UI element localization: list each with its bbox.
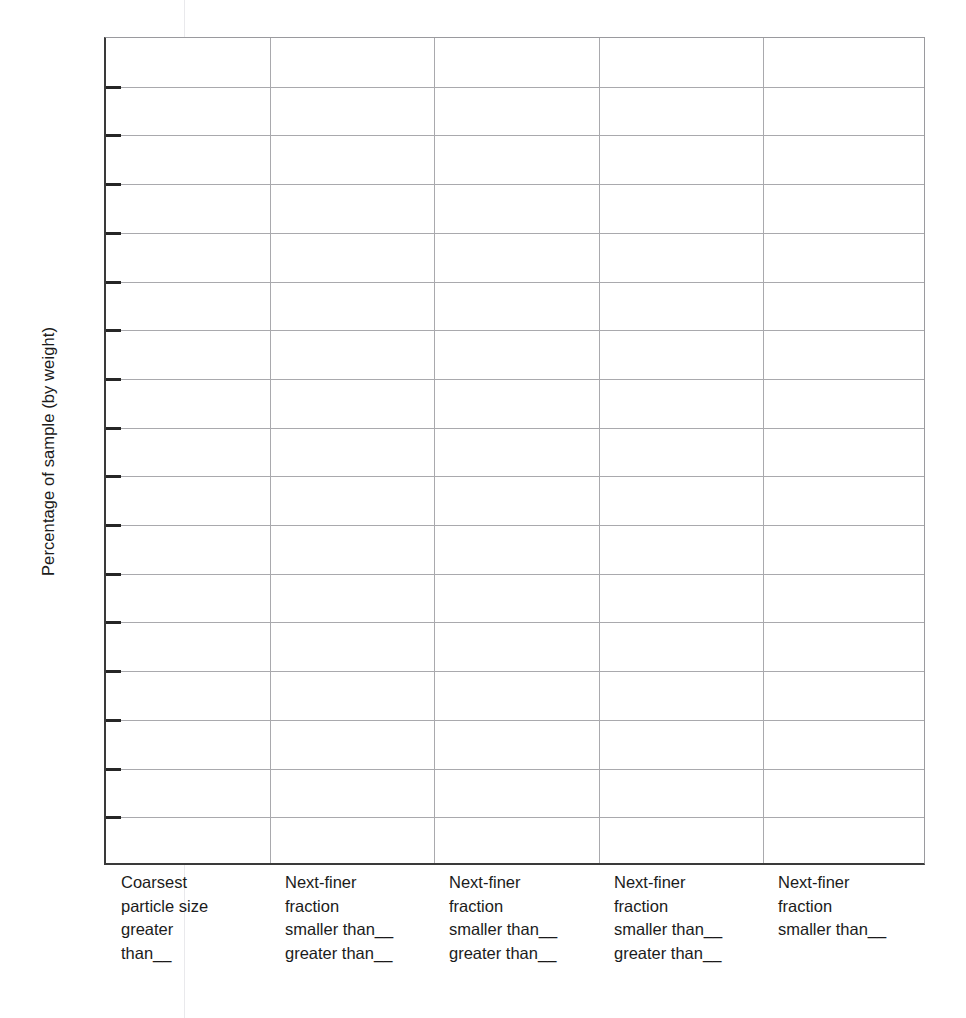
gridline-horizontal bbox=[106, 769, 924, 770]
y-axis-tick bbox=[106, 134, 121, 137]
x-axis-label-line: fraction bbox=[285, 895, 393, 919]
y-axis-title-text: Percentage of sample (by weight) bbox=[39, 327, 58, 576]
x-axis-label-line: Next-finer bbox=[778, 871, 886, 895]
gridline-horizontal bbox=[106, 720, 924, 721]
y-axis-title: Percentage of sample (by weight) bbox=[0, 37, 96, 865]
y-axis-tick bbox=[106, 573, 121, 576]
gridline-horizontal bbox=[106, 87, 924, 88]
gridline-horizontal bbox=[106, 184, 924, 185]
y-axis-tick bbox=[106, 281, 121, 284]
gridline-horizontal bbox=[106, 574, 924, 575]
x-axis-label-line: Next-finer bbox=[449, 871, 557, 895]
x-axis-label-line: smaller than__ bbox=[778, 918, 886, 942]
gridline-horizontal bbox=[106, 476, 924, 477]
gridline-vertical bbox=[270, 38, 271, 863]
vertical-gridlines bbox=[106, 38, 924, 863]
y-axis-tick bbox=[106, 427, 121, 430]
x-axis-label-line: greater bbox=[121, 918, 208, 942]
x-axis-label-line: particle size bbox=[121, 895, 208, 919]
gridline-vertical bbox=[599, 38, 600, 863]
y-axis-tick bbox=[106, 816, 121, 819]
y-axis-tick bbox=[106, 768, 121, 771]
x-axis-label-line: than__ bbox=[121, 942, 208, 966]
y-axis-tick bbox=[106, 86, 121, 89]
x-axis-label-line: greater than__ bbox=[285, 942, 393, 966]
plot-area bbox=[104, 37, 925, 865]
x-axis-label-next-finer-3: Next-finerfractionsmaller than__greater … bbox=[614, 871, 722, 965]
x-axis-label-line: Next-finer bbox=[285, 871, 393, 895]
y-axis-tick bbox=[106, 329, 121, 332]
gridline-horizontal bbox=[106, 671, 924, 672]
x-axis-label-line: Coarsest bbox=[121, 871, 208, 895]
x-axis-label-line: fraction bbox=[449, 895, 557, 919]
x-axis-label-line: greater than__ bbox=[449, 942, 557, 966]
x-axis-label-line: fraction bbox=[614, 895, 722, 919]
y-axis-tick bbox=[106, 183, 121, 186]
gridline-vertical bbox=[763, 38, 764, 863]
y-axis-tick bbox=[106, 524, 121, 527]
blank-grid-chart-figure: Percentage of sample (by weight) Coarses… bbox=[0, 0, 966, 1018]
x-axis-label-coarsest-fraction: Coarsestparticle sizegreaterthan__ bbox=[121, 871, 208, 965]
x-axis-category-labels: Coarsestparticle sizegreaterthan__Next-f… bbox=[104, 871, 966, 981]
x-axis-label-next-finer-4: Next-finerfractionsmaller than__ bbox=[778, 871, 886, 942]
y-axis-tick bbox=[106, 232, 121, 235]
x-axis-label-next-finer-2: Next-finerfractionsmaller than__greater … bbox=[449, 871, 557, 965]
x-axis-label-line: greater than__ bbox=[614, 942, 722, 966]
gridline-horizontal bbox=[106, 525, 924, 526]
x-axis-label-next-finer-1: Next-finerfractionsmaller than__greater … bbox=[285, 871, 393, 965]
gridline-horizontal bbox=[106, 282, 924, 283]
y-axis-tick bbox=[106, 670, 121, 673]
x-axis-label-line: Next-finer bbox=[614, 871, 722, 895]
gridline-horizontal bbox=[106, 379, 924, 380]
gridline-horizontal bbox=[106, 330, 924, 331]
gridline-horizontal bbox=[106, 135, 924, 136]
x-axis-label-line: smaller than__ bbox=[614, 918, 722, 942]
y-axis-tick-marks bbox=[106, 38, 924, 863]
gridline-vertical bbox=[434, 38, 435, 863]
y-axis-tick bbox=[106, 719, 121, 722]
x-axis-label-line: fraction bbox=[778, 895, 886, 919]
gridline-horizontal bbox=[106, 233, 924, 234]
y-axis-tick bbox=[106, 475, 121, 478]
gridline-horizontal bbox=[106, 817, 924, 818]
x-axis-label-line: smaller than__ bbox=[449, 918, 557, 942]
y-axis-tick bbox=[106, 378, 121, 381]
horizontal-gridlines bbox=[106, 38, 924, 863]
gridline-horizontal bbox=[106, 428, 924, 429]
y-axis-tick bbox=[106, 621, 121, 624]
gridline-horizontal bbox=[106, 622, 924, 623]
x-axis-label-line: smaller than__ bbox=[285, 918, 393, 942]
